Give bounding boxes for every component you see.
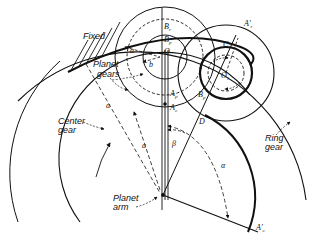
arm-to-Ac-prime — [163, 195, 258, 232]
point-Bp: Bp — [164, 35, 172, 45]
angle-beta-arc — [168, 130, 185, 133]
center-gear-rotation-arrow — [96, 143, 110, 177]
dim-a-mid: a — [142, 141, 146, 150]
label-planet-gears-1: Planet — [93, 59, 119, 69]
arm-pivot — [161, 193, 165, 197]
label-planet-gears-2: gears — [97, 69, 120, 79]
point-Ac: Ac — [169, 103, 178, 113]
planet-arm-leader — [136, 197, 157, 207]
point-O: O — [164, 47, 170, 56]
point-Br: Br — [164, 22, 171, 32]
dimension-a-mid — [134, 112, 160, 190]
outer-left-arc — [10, 61, 60, 222]
label-fixed: Fixed — [83, 31, 106, 41]
dim-beta: β — [171, 139, 176, 148]
right-planet-rotation-arrow-2 — [225, 82, 240, 89]
A-c-point — [163, 102, 167, 106]
dim-b: b — [149, 60, 153, 69]
point-Bp-right: Bp — [198, 90, 206, 100]
label-planet-arm-2: arm — [113, 202, 129, 212]
dim-alpha: α — [221, 161, 226, 170]
dim-a-left: a — [106, 101, 110, 110]
label-ring-gear-2: gear — [265, 142, 284, 152]
point-Ar-prime: A'r — [243, 19, 253, 29]
point-C: C — [223, 40, 229, 49]
center-gear-leader — [83, 122, 104, 129]
dim-a-top: a — [130, 46, 134, 55]
point-Ac-prime: A'c — [255, 223, 266, 233]
angle-alpha-arc — [168, 126, 228, 218]
arm-to-O1-line — [163, 35, 236, 195]
point-Ap: Ap — [169, 89, 178, 99]
label-center-gear-2: gear — [58, 125, 77, 135]
point-D: D — [198, 117, 205, 126]
planetary-gear-diagram: Fixed Planet gears Center gear Ring gear… — [0, 0, 313, 249]
